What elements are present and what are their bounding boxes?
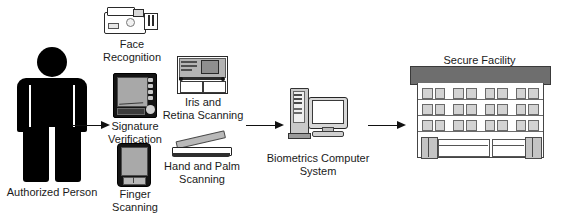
building-window [516,88,527,99]
iris-scanner-display [201,60,219,74]
signature-tablet-buttons [148,78,154,104]
computer-tower-slot-1 [294,94,302,96]
arrow-head [397,121,406,129]
signature-tablet-dpad [146,105,155,114]
finger-scanner-key-divider [133,177,134,183]
building-entrance-right-mullion [492,145,524,146]
iris-scanner-icon [177,56,228,94]
iris-scanner-divider [179,77,224,80]
building-entrance-left [438,139,490,157]
person-leg-left [23,127,49,182]
label-authorized-person: Authorized Person [4,186,100,199]
building-window [422,120,433,131]
label-iris-retina-scanning: Iris and Retina Scanning [158,96,248,122]
building-window [435,88,446,99]
camcorder-reel [126,18,135,27]
camcorder-grip [133,9,144,17]
computer-tower-slot-4 [294,108,302,110]
building-window [497,104,508,115]
computer-tower-slot-2 [294,98,302,100]
biometric-access-diagram: Authorized Person Face Recognition Signa… [0,0,562,219]
person-leg-gap [49,127,55,182]
building-walls [417,83,544,158]
building-window [485,104,496,115]
label-biometrics-computer-system: Biometrics Computer System [262,152,374,178]
arrow-computer-to-facility [368,121,406,130]
signature-tablet-icon [113,73,157,118]
label-finger-scanning: Finger Scanning [100,188,170,214]
building-window [422,104,433,115]
person-head [37,47,67,77]
building-pillar-right [525,137,542,159]
building-window [453,104,464,115]
building-window [466,120,477,131]
finger-scanner-icon [117,143,151,187]
building-window [485,88,496,99]
building-window [516,120,527,131]
finger-scanner-screen [121,147,148,176]
computer-tower-slot-5 [294,112,302,114]
flatbed-scanner-icon [170,130,232,160]
building-window [435,104,446,115]
camcorder-lens [144,13,158,30]
building-pillar-left-seam [428,137,429,157]
building-window-row-1 [418,87,543,100]
camcorder-lens-ring-2 [152,15,154,26]
camcorder-top-handle [107,7,135,16]
arrow-biometrics-to-computer [246,121,284,130]
person-leg-right [55,127,81,182]
computer-monitor-foot [312,131,344,137]
building-window [497,88,508,99]
computer-tower-slot-3 [294,102,302,104]
building-window [466,88,477,99]
arrow-head [275,121,284,129]
iris-scanner-panel-left [180,81,203,93]
building-window [435,120,446,131]
building-ground-floor [418,135,543,157]
computer-tower-base [288,133,311,139]
camcorder-viewfinder [108,23,119,29]
arrow-shaft [246,125,276,126]
office-building-icon [410,66,549,158]
camcorder-icon [104,4,160,34]
building-window [422,88,433,99]
building-window [497,120,508,131]
building-window [466,104,477,115]
computer-tower-face [293,91,305,123]
building-window [485,120,496,131]
iris-scanner-slit-3 [181,69,192,71]
flatbed-scanner-base [172,153,230,157]
building-window [453,120,464,131]
person-silhouette-icon [14,47,90,182]
arrow-shaft [368,125,398,126]
building-window [528,104,539,115]
building-window [528,88,539,99]
label-hand-palm-scanning: Hand and Palm Scanning [156,160,248,186]
iris-scanner-slit-1 [181,61,197,63]
building-window [453,88,464,99]
iris-scanner-slit-2 [181,65,197,67]
computer-monitor-screen [312,100,344,124]
label-face-recognition: Face Recognition [96,38,168,64]
building-pillar-left [421,137,438,159]
building-window [516,104,527,115]
finger-scanner-keys [123,177,146,185]
building-window-row-3 [418,119,543,132]
iris-scanner-panel-right [203,81,226,93]
signature-tablet-strip [117,108,145,115]
desktop-computer-icon [286,88,348,140]
building-window-row-2 [418,103,543,116]
camcorder-lens-ring-1 [148,15,150,26]
building-entrance-left-mullion [438,145,488,146]
building-entrance-right [492,139,526,157]
building-window [528,120,539,131]
building-pillar-right-seam [532,137,533,157]
person-arm-gap-left [29,85,31,131]
